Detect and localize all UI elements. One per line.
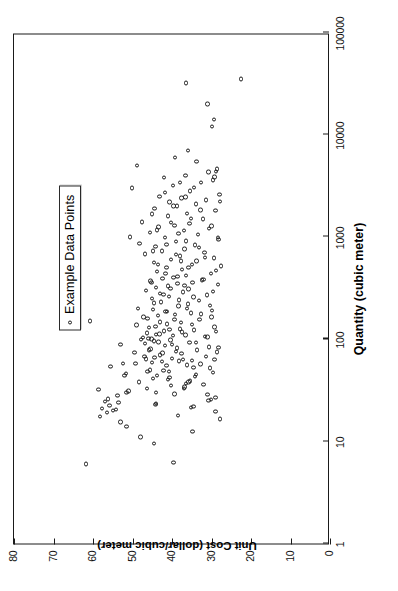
data-point <box>170 356 174 360</box>
data-point <box>162 328 166 332</box>
data-point <box>194 372 198 376</box>
data-point <box>98 414 102 418</box>
data-point <box>116 400 120 404</box>
x-axis-tick <box>323 235 329 236</box>
data-point <box>136 306 140 310</box>
data-point <box>152 300 156 304</box>
data-point <box>146 336 150 340</box>
data-point <box>202 250 206 254</box>
data-point <box>204 197 208 201</box>
data-point <box>171 203 175 207</box>
data-point <box>197 245 201 249</box>
data-point <box>209 271 213 275</box>
data-point <box>217 192 221 196</box>
data-point <box>145 330 149 334</box>
data-point <box>191 365 195 369</box>
data-point <box>162 175 166 179</box>
data-point <box>209 397 213 401</box>
data-point <box>199 311 203 315</box>
data-point <box>213 409 217 413</box>
data-point <box>178 253 182 257</box>
data-point <box>172 317 176 321</box>
data-point <box>197 317 201 321</box>
data-point <box>183 173 187 177</box>
data-point <box>164 265 168 269</box>
data-point <box>108 364 112 368</box>
data-point <box>84 461 88 465</box>
data-point <box>188 189 192 193</box>
data-point <box>174 239 178 243</box>
data-point <box>186 301 190 305</box>
data-point <box>213 395 217 399</box>
data-point <box>169 220 173 224</box>
x-axis-tick <box>323 31 329 32</box>
data-point <box>188 378 192 382</box>
data-point <box>194 159 198 163</box>
data-point <box>179 351 183 355</box>
data-point <box>128 234 132 238</box>
data-point <box>182 246 186 250</box>
data-point <box>151 248 155 252</box>
data-point <box>199 180 203 184</box>
data-point <box>148 367 152 371</box>
data-point <box>160 359 164 363</box>
data-point <box>216 345 220 349</box>
data-point <box>115 393 119 397</box>
data-point <box>201 216 205 220</box>
data-point <box>198 207 202 211</box>
data-point <box>187 221 191 225</box>
data-point <box>173 312 177 316</box>
data-point <box>163 271 167 275</box>
data-point <box>160 276 164 280</box>
chart-legend[interactable]: Example Data Points <box>59 185 81 330</box>
data-point <box>137 241 141 245</box>
data-point <box>132 350 136 354</box>
x-axis-tick-label: 1000 <box>334 226 346 249</box>
data-point <box>194 258 198 262</box>
data-point <box>211 289 215 293</box>
data-point <box>138 434 142 438</box>
data-point <box>184 80 188 84</box>
legend-series-label: Example Data Points <box>63 194 77 314</box>
data-point <box>218 416 222 420</box>
scatter-plot-figure: 110100100010000100000 01020304050607080 … <box>0 0 398 591</box>
data-point <box>176 413 180 417</box>
data-point <box>114 407 118 411</box>
data-point <box>207 344 211 348</box>
data-point <box>185 306 189 310</box>
data-point <box>118 419 122 423</box>
data-point <box>178 180 182 184</box>
data-point <box>168 286 172 290</box>
data-point <box>139 337 143 341</box>
data-point <box>205 334 209 338</box>
data-point <box>163 235 167 239</box>
data-point <box>135 163 139 167</box>
data-point <box>140 219 144 223</box>
x-axis-tick-label: 10 <box>334 436 346 447</box>
data-point <box>152 206 156 210</box>
data-point <box>185 211 189 215</box>
data-point <box>155 227 159 231</box>
data-point <box>209 314 213 318</box>
data-point <box>167 375 171 379</box>
data-point <box>105 410 109 414</box>
data-point <box>151 307 155 311</box>
data-point <box>186 265 190 269</box>
data-point <box>192 327 196 331</box>
data-point <box>209 223 213 227</box>
data-point <box>191 404 195 408</box>
data-point <box>239 76 243 80</box>
x-axis-tick <box>323 440 329 441</box>
data-point <box>179 258 183 262</box>
data-point <box>213 208 217 212</box>
data-point <box>154 401 158 405</box>
data-point <box>184 238 188 242</box>
data-point <box>100 406 104 410</box>
data-point <box>195 347 199 351</box>
data-point <box>156 262 160 266</box>
data-point <box>186 148 190 152</box>
data-point <box>206 169 210 173</box>
data-point <box>171 460 175 464</box>
data-point <box>118 342 122 346</box>
data-point <box>170 342 174 346</box>
